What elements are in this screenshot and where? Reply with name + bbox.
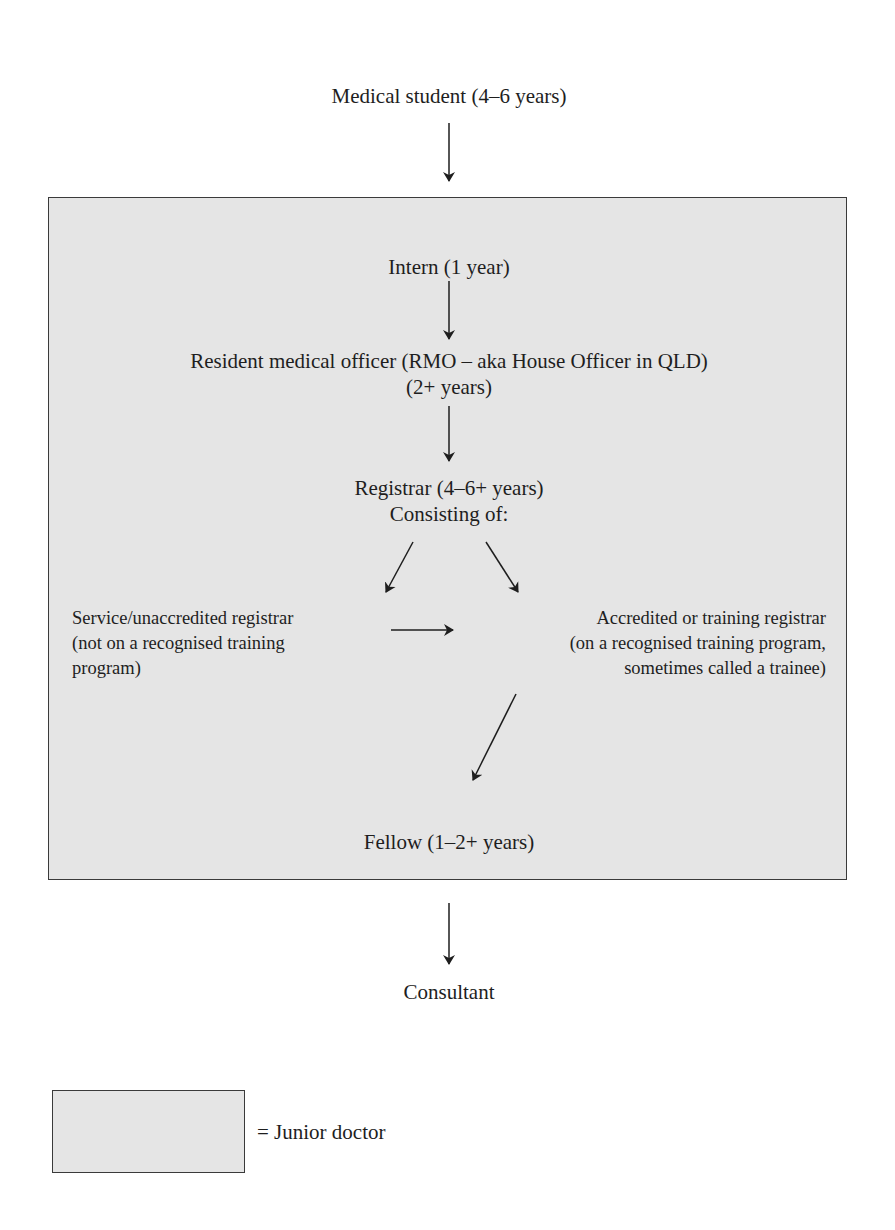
- legend-swatch: [52, 1090, 245, 1173]
- node-intern: Intern (1 year): [388, 254, 509, 280]
- node-medical-student: Medical student (4–6 years): [331, 83, 566, 109]
- node-accredited-line1: Accredited or training registrar: [570, 606, 826, 631]
- junior-doctor-group-box: [48, 197, 847, 880]
- node-accredited-registrar: Accredited or training registrar (on a r…: [570, 606, 826, 681]
- node-service-registrar: Service/unaccredited registrar (not on a…: [72, 606, 293, 681]
- node-accredited-line3: sometimes called a trainee): [570, 656, 826, 681]
- node-service-line2: (not on a recognised training: [72, 631, 293, 656]
- node-rmo-line1: Resident medical officer (RMO – aka Hous…: [190, 348, 708, 374]
- node-fellow: Fellow (1–2+ years): [364, 829, 534, 855]
- node-service-line3: program): [72, 656, 293, 681]
- node-consultant: Consultant: [403, 979, 494, 1005]
- node-service-line1: Service/unaccredited registrar: [72, 606, 293, 631]
- node-registrar-line1: Registrar (4–6+ years): [354, 475, 543, 501]
- node-accredited-line2: (on a recognised training program,: [570, 631, 826, 656]
- node-rmo-line2: (2+ years): [190, 374, 708, 400]
- node-registrar: Registrar (4–6+ years) Consisting of:: [354, 475, 543, 527]
- legend-label: = Junior doctor: [257, 1119, 386, 1145]
- node-rmo: Resident medical officer (RMO – aka Hous…: [190, 348, 708, 400]
- node-registrar-line2: Consisting of:: [354, 501, 543, 527]
